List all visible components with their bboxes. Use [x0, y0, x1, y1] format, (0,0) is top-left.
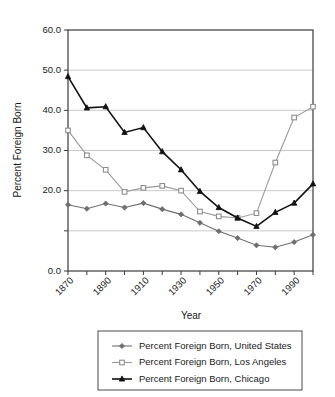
y-tick-label: 0.0: [48, 265, 61, 276]
data-point: [254, 211, 259, 216]
x-axis-title: Year: [181, 310, 202, 321]
gridlines: [68, 70, 313, 231]
data-point: [122, 205, 127, 210]
data-point: [103, 201, 108, 206]
data-point: [273, 160, 278, 165]
x-tick-label: 1950: [203, 275, 226, 298]
series-united-states: [65, 201, 315, 250]
data-point: [310, 232, 315, 237]
data-point: [119, 343, 124, 348]
y-tick-label: 50.0: [43, 64, 62, 75]
data-point: [66, 128, 71, 133]
data-point: [216, 229, 221, 234]
y-tick-label: 40.0: [43, 104, 62, 115]
y-tick-label: 60.0: [43, 24, 62, 35]
x-tick-label: 1990: [279, 275, 302, 298]
data-point: [178, 212, 183, 217]
data-point: [84, 206, 89, 211]
foreign-born-line-chart: 0.020.030.040.050.060.0 1870189019101930…: [0, 0, 335, 397]
data-point: [160, 184, 165, 189]
data-point: [160, 207, 165, 212]
data-point: [216, 214, 221, 219]
legend-label: Percent Foreign Born, Chicago: [139, 373, 269, 384]
data-point: [141, 125, 146, 130]
data-point: [141, 201, 146, 206]
data-point: [311, 104, 316, 109]
series-los-angeles: [66, 104, 316, 220]
legend: Percent Foreign Born, United StatesPerce…: [98, 331, 302, 390]
chart-container: 0.020.030.040.050.060.0 1870189019101930…: [0, 0, 335, 397]
y-axis-tick-labels: 0.020.030.040.050.060.0: [43, 24, 62, 276]
series-chicago: [65, 73, 315, 228]
data-point: [197, 220, 202, 225]
x-tick-label: 1870: [53, 275, 76, 298]
x-tick-label: 1890: [90, 275, 113, 298]
data-point: [122, 190, 127, 195]
data-point: [235, 235, 240, 240]
data-point: [65, 202, 70, 207]
x-tick-label: 1930: [166, 275, 189, 298]
data-point: [179, 188, 184, 193]
data-point: [292, 115, 297, 120]
data-point: [198, 209, 203, 214]
data-point: [310, 181, 315, 186]
legend-label: Percent Foreign Born, United States: [139, 340, 292, 351]
series-polyline: [68, 203, 313, 247]
y-axis-title: Percent Foreign Born: [12, 102, 23, 197]
legend-label: Percent Foreign Born, Los Angeles: [139, 356, 287, 367]
y-tick-label: 20.0: [43, 184, 62, 195]
data-point: [120, 360, 125, 365]
data-point: [103, 167, 108, 172]
data-point: [65, 73, 70, 78]
x-tick-label: 1970: [241, 275, 264, 298]
data-point: [141, 186, 146, 191]
data-point: [292, 239, 297, 244]
data-point: [273, 245, 278, 250]
x-axis-tick-labels: 1870189019101930195019701990: [53, 275, 302, 298]
y-tick-label: 30.0: [43, 144, 62, 155]
x-tick-label: 1910: [128, 275, 151, 298]
data-point: [85, 153, 90, 158]
data-point: [254, 243, 259, 248]
